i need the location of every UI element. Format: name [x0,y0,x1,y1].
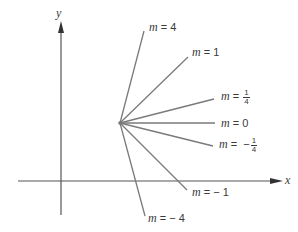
y-axis-arrowhead-icon [58,21,64,33]
label-m-4: m = 4 [149,21,176,33]
label-m-0: m = 0 [221,117,248,129]
hub-point [118,121,122,125]
x-axis-label: x [285,174,290,186]
label-m-one-quarter: m = 14 [221,89,250,106]
label-m-1: m = 1 [192,46,219,58]
slope-line [120,99,214,123]
fraction: 14 [243,89,249,106]
label-m-neg-1: m = − 1 [192,186,229,198]
slope-line [120,57,188,123]
label-m-neg-one-quarter: m = −14 [219,137,257,154]
y-axis-label: y [56,7,61,19]
fraction: 14 [251,137,257,154]
label-m-neg-4: m = − 4 [148,212,185,224]
slope-line [120,123,145,216]
slope-line [120,123,213,146]
diagram-canvas [0,0,298,232]
slope-diagram: y x m = 4 m = 1 m = 14 m = 0 m = −14 m =… [0,0,298,232]
slope-line [120,31,144,123]
slope-line [120,123,187,190]
x-axis-arrowhead-icon [270,178,283,184]
